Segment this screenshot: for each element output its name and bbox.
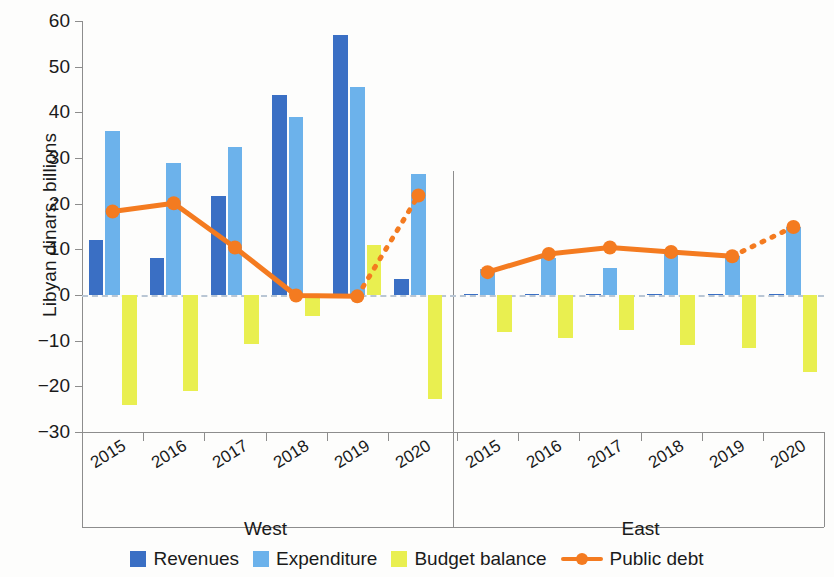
legend-item-expenditure[interactable]: Expenditure: [253, 548, 377, 570]
public-debt-marker-east-2017: [603, 241, 617, 255]
y-tick-label: 10: [14, 238, 70, 260]
y-tick-mark: [75, 158, 82, 159]
bar-revenues-west-2015: [89, 240, 104, 295]
x-tick-label-east-2020: 2020: [767, 436, 810, 473]
x-tick-mark: [204, 432, 205, 441]
legend-item-revenues[interactable]: Revenues: [130, 548, 239, 570]
bar-budget-balance-west-2017: [244, 295, 259, 344]
bar-expenditure-east-2020: [786, 227, 801, 295]
group-label-east: East: [457, 518, 824, 540]
public-debt-line-dashed-east: [732, 227, 793, 256]
bar-revenues-west-2019: [333, 35, 348, 295]
bar-expenditure-west-2017: [228, 147, 243, 295]
y-tick-label: −30: [14, 421, 70, 443]
legend-label: Expenditure: [276, 548, 377, 570]
x-tick-label-west-2019: 2019: [331, 436, 374, 473]
legend-label: Revenues: [153, 548, 239, 570]
x-tick-mark: [518, 432, 519, 441]
x-tick-label-west-2017: 2017: [209, 436, 252, 473]
bar-budget-balance-west-2016: [183, 295, 198, 391]
x-tick-label-west-2020: 2020: [392, 436, 435, 473]
bar-revenues-west-2020: [394, 279, 409, 295]
bar-budget-balance-east-2016: [558, 295, 573, 338]
y-tick-mark: [75, 249, 82, 250]
bar-revenues-west-2018: [272, 95, 287, 295]
x-tick-mark: [327, 432, 328, 441]
bar-budget-balance-east-2017: [619, 295, 634, 330]
x-tick-label-east-2017: 2017: [584, 436, 627, 473]
y-tick-mark: [75, 432, 82, 433]
y-tick-label: 0: [14, 284, 70, 306]
bar-budget-balance-east-2018: [680, 295, 695, 345]
y-tick-mark: [75, 386, 82, 387]
legend-label: Public debt: [610, 548, 704, 570]
y-tick-mark: [75, 295, 82, 296]
bar-expenditure-east-2015: [480, 269, 495, 295]
bar-revenues-west-2017: [211, 196, 226, 295]
x-tick-label-east-2015: 2015: [462, 436, 505, 473]
y-axis-title: Libyan dinars, billions: [39, 25, 61, 425]
legend-swatch-icon: [253, 551, 269, 567]
bar-budget-balance-east-2019: [742, 295, 757, 348]
group-label-west: West: [82, 518, 449, 540]
x-tick-mark: [266, 432, 267, 441]
bar-budget-balance-west-2015: [122, 295, 137, 405]
chart-container: Libyan dinars, billions 6050403020100−10…: [0, 0, 834, 577]
bar-expenditure-west-2018: [289, 117, 304, 295]
bar-budget-balance-east-2020: [803, 295, 818, 372]
y-tick-mark: [75, 112, 82, 113]
y-tick-label: 40: [14, 101, 70, 123]
bar-budget-balance-west-2020: [428, 295, 443, 399]
bar-expenditure-west-2016: [166, 163, 181, 295]
bar-expenditure-west-2015: [105, 131, 120, 295]
x-tick-mark: [763, 432, 764, 441]
bar-expenditure-east-2017: [603, 268, 618, 295]
bar-budget-balance-west-2019: [367, 245, 382, 295]
y-tick-mark: [75, 341, 82, 342]
y-tick-mark: [75, 204, 82, 205]
x-tick-mark: [641, 432, 642, 441]
x-tick-label-west-2018: 2018: [270, 436, 313, 473]
bar-revenues-west-2016: [150, 258, 165, 295]
x-tick-label-west-2015: 2015: [87, 436, 130, 473]
y-tick-label: −10: [14, 330, 70, 352]
chart-legend: RevenuesExpenditureBudget balancePublic …: [0, 548, 834, 570]
legend-label: Budget balance: [414, 548, 546, 570]
x-tick-label-east-2016: 2016: [523, 436, 566, 473]
y-tick-mark: [75, 21, 82, 22]
bar-expenditure-east-2016: [541, 258, 556, 295]
legend-swatch-icon: [130, 551, 146, 567]
bar-expenditure-west-2019: [350, 87, 365, 295]
bar-budget-balance-west-2018: [305, 295, 320, 316]
bar-expenditure-west-2020: [411, 174, 426, 295]
group-separator: [453, 171, 454, 527]
bar-expenditure-east-2018: [664, 253, 679, 295]
x-tick-label-east-2019: 2019: [706, 436, 749, 473]
legend-line-marker-icon: [561, 551, 603, 567]
y-tick-label: 30: [14, 147, 70, 169]
x-tick-mark: [457, 432, 458, 441]
y-tick-label: 60: [14, 10, 70, 32]
legend-item-budget-balance[interactable]: Budget balance: [391, 548, 546, 570]
x-tick-mark: [702, 432, 703, 441]
bar-revenues-east-2016: [525, 294, 540, 295]
bar-revenues-east-2018: [647, 294, 662, 295]
y-tick-mark: [75, 67, 82, 68]
bar-revenues-east-2015: [464, 294, 479, 295]
x-axis-left-edge: [82, 432, 83, 527]
bar-expenditure-east-2019: [725, 256, 740, 295]
x-tick-mark: [82, 432, 83, 441]
x-tick-label-west-2016: 2016: [148, 436, 191, 473]
legend-item-public-debt[interactable]: Public debt: [561, 548, 704, 570]
x-axis-right-edge: [824, 432, 825, 527]
bar-budget-balance-east-2015: [497, 295, 512, 332]
x-tick-mark: [143, 432, 144, 441]
x-tick-mark: [388, 432, 389, 441]
y-axis-line: [82, 21, 83, 462]
y-tick-label: −20: [14, 375, 70, 397]
y-tick-label: 50: [14, 56, 70, 78]
bar-revenues-east-2020: [769, 294, 784, 295]
x-tick-mark: [579, 432, 580, 441]
bar-revenues-east-2019: [708, 294, 723, 295]
bar-revenues-east-2017: [586, 294, 601, 295]
